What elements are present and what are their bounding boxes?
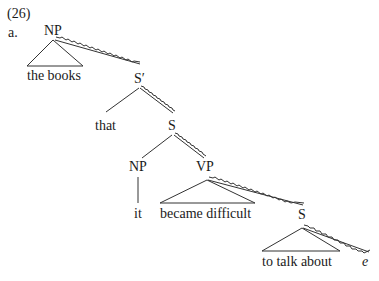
triangle-the-books xyxy=(27,40,83,66)
leaf-became-difficult: became difficult xyxy=(160,207,251,221)
leaf-that: that xyxy=(95,119,116,133)
triangle-became-difficult xyxy=(160,180,255,203)
wavy-sbar-s xyxy=(141,86,175,111)
node-s-bar: S′ xyxy=(134,72,145,86)
node-s-low: S xyxy=(298,208,306,222)
node-np-top: NP xyxy=(44,24,62,38)
node-s-mid: S xyxy=(168,119,176,133)
example-number: (26) xyxy=(7,7,30,21)
example-sub-label: a. xyxy=(8,26,18,40)
wavy-np-sbar xyxy=(56,37,140,62)
path-np-sbar xyxy=(55,40,140,64)
leaf-to-talk-about: to talk about xyxy=(262,255,332,269)
path-sbar-s xyxy=(140,88,173,113)
wavy-vp-s xyxy=(209,177,304,203)
triangle-to-talk-about xyxy=(262,228,340,251)
path-s-vp xyxy=(174,135,204,158)
leaf-gap-e: e xyxy=(362,255,368,269)
branch-s-np xyxy=(142,135,172,158)
leaf-it: it xyxy=(134,207,142,221)
node-np-low: NP xyxy=(129,160,147,174)
wavy-s-vp xyxy=(175,133,206,156)
branch-sbar-that xyxy=(106,88,139,112)
node-vp: VP xyxy=(196,160,214,174)
syntax-tree-lines xyxy=(0,0,379,281)
path-vp-s xyxy=(208,180,303,205)
leaf-the-books: the books xyxy=(27,69,81,83)
